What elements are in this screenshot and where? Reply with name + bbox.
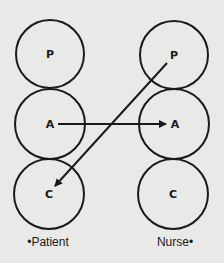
nurse-caption: Nurse• [157,235,193,249]
patient-caption: •Patient [27,235,69,249]
transaction-diagram: P A C P A C •Patient Nurse• [0,0,224,263]
patient-a-label: A [46,118,55,131]
nurse-p-label: P [170,49,178,62]
patient-p-label: P [46,48,54,61]
patient-c-label: C [45,188,53,201]
nurse-a-label: A [171,118,180,131]
nurse-c-label: C [169,188,177,201]
